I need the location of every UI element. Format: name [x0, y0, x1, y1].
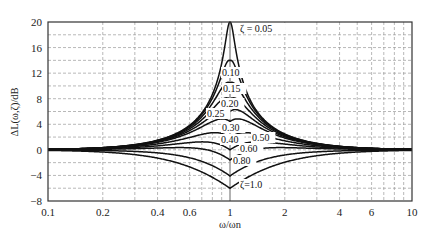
- y-tick-label: −4: [30, 169, 42, 181]
- curve-label: 0.40: [221, 134, 239, 145]
- error-chart: −8−4048121620 0.10.20.40.6124610 ζ = 0.0…: [0, 0, 433, 241]
- y-tick-label: 12: [31, 67, 42, 79]
- curve-label: 0.30: [222, 122, 240, 133]
- x-tick-label: 0.4: [151, 206, 165, 218]
- curve-label: ζ = 0.05: [240, 23, 272, 35]
- y-tick-label: 0: [37, 144, 43, 156]
- x-tick-label: 4: [337, 206, 343, 218]
- curve-label: 0.10: [222, 67, 240, 78]
- y-axis-ticks: −8−4048121620: [30, 16, 42, 207]
- curve-label: 0.60: [240, 143, 258, 154]
- x-axis-label: ω/ωn: [219, 219, 242, 230]
- y-tick-label: 20: [31, 16, 43, 28]
- y-tick-label: 4: [37, 118, 43, 130]
- x-tick-label: 0.2: [96, 206, 110, 218]
- x-tick-label: 0.6: [183, 206, 197, 218]
- x-tick-label: 2: [282, 206, 288, 218]
- curve-label: ζ=1.0: [240, 179, 262, 191]
- x-axis-ticks: 0.10.20.40.6124610: [41, 206, 418, 218]
- curve-label: 0.50: [252, 132, 270, 143]
- y-axis-label: ΔL(ω,ζ)/dB: [9, 87, 21, 136]
- x-tick-label: 0.1: [41, 206, 55, 218]
- y-tick-label: 8: [37, 93, 43, 105]
- x-tick-label: 1: [227, 206, 233, 218]
- curve-label: 0.25: [207, 108, 225, 119]
- x-tick-label: 10: [407, 206, 419, 218]
- x-tick-label: 6: [369, 206, 375, 218]
- curve-label: 0.80: [233, 155, 251, 166]
- curve-label: 0.15: [223, 83, 241, 94]
- y-tick-label: 16: [31, 42, 43, 54]
